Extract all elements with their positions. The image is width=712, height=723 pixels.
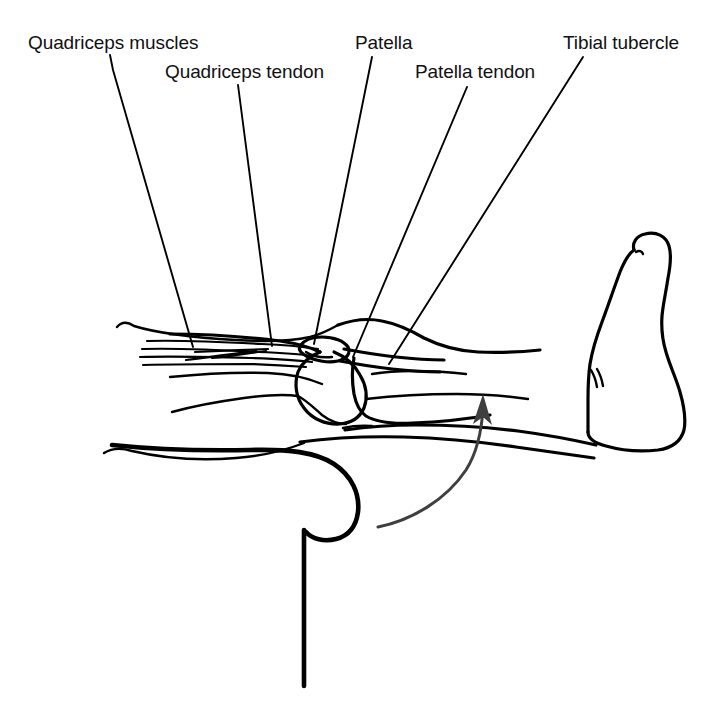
label-quadriceps-muscles: Quadriceps muscles xyxy=(28,33,198,52)
condyle-lower-contour xyxy=(172,395,298,412)
foot-outline xyxy=(588,233,685,451)
lower-thigh-skin xyxy=(170,373,322,384)
leader-line-patella-tendon xyxy=(353,87,467,357)
thigh-outline-upper xyxy=(117,320,540,384)
leader-line-quadriceps-muscles xyxy=(110,55,193,347)
tibia-anterior-crest xyxy=(366,394,528,399)
label-patella: Patella xyxy=(355,33,412,52)
label-tibial-tubercle: Tibial tubercle xyxy=(563,33,679,52)
striation-4 xyxy=(143,364,306,367)
suprapatellar-contour xyxy=(338,320,540,353)
leader-lines xyxy=(110,55,583,364)
foot-instep xyxy=(588,250,634,432)
ankle-notch-2 xyxy=(597,369,603,386)
leader-line-patella xyxy=(314,57,372,344)
diagram-canvas xyxy=(0,0,712,723)
label-patella-tendon: Patella tendon xyxy=(415,62,535,81)
anatomy-diagram: Quadriceps muscles Quadriceps tendon Pat… xyxy=(0,0,712,723)
extension-arrow xyxy=(378,394,492,527)
skin-top-edge xyxy=(117,323,338,341)
toe-crease xyxy=(636,251,643,254)
calf-outline xyxy=(300,425,596,458)
quadriceps-muscle-striations xyxy=(140,341,318,367)
seat-edge-and-thigh-lower xyxy=(104,443,358,686)
foot-profile xyxy=(588,233,685,451)
femur-and-condyle xyxy=(170,334,366,424)
leader-line-tibial-tubercle xyxy=(389,57,583,364)
ankle-notch-1 xyxy=(591,370,597,387)
label-quadriceps-tendon: Quadriceps tendon xyxy=(165,62,324,81)
patella-bone xyxy=(299,337,349,362)
calf-lower-skin xyxy=(300,437,594,458)
leader-line-quadriceps-tendon xyxy=(238,85,272,346)
